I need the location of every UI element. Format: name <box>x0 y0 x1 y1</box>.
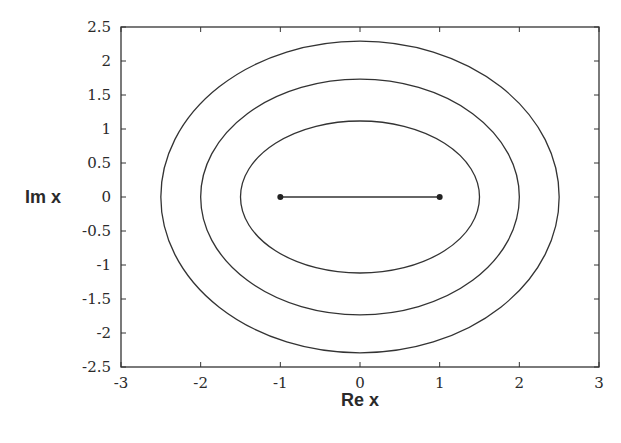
y-tick-label: 2.5 <box>87 18 111 36</box>
x-tick-label: 3 <box>594 374 604 392</box>
y-axis-label: Im x <box>25 187 61 207</box>
x-tick-label: 2 <box>515 374 525 392</box>
y-tick-label: 1.5 <box>87 86 111 104</box>
y-tick-label: -1.5 <box>82 290 111 308</box>
y-tick-label: -0.5 <box>82 222 111 240</box>
tick-labels: -3-2-10123-2.5-2-1.5-1-0.500.511.522.5 <box>82 18 604 392</box>
y-tick-label: 0 <box>101 188 111 206</box>
x-tick-label: -1 <box>273 374 288 392</box>
endpoint-marker <box>437 194 443 200</box>
x-tick-label: 1 <box>435 374 445 392</box>
y-tick-label: 2 <box>101 52 111 70</box>
y-tick-label: 1 <box>101 120 111 138</box>
y-tick-label: 0.5 <box>87 154 111 172</box>
chart: -3-2-10123-2.5-2-1.5-1-0.500.511.522.5 R… <box>0 0 621 443</box>
y-tick-label: -1 <box>96 256 111 274</box>
plot-curves <box>161 41 559 353</box>
x-tick-label: -2 <box>193 374 208 392</box>
x-axis-label: Re x <box>341 390 379 410</box>
endpoint-marker <box>277 194 283 200</box>
y-tick-label: -2 <box>96 324 111 342</box>
y-tick-label: -2.5 <box>82 358 111 376</box>
x-tick-label: -3 <box>114 374 129 392</box>
